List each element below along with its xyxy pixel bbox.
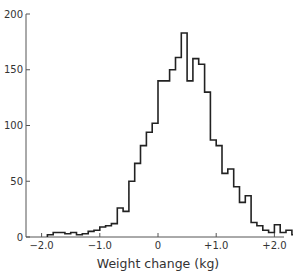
x-tick-label: +2.0 bbox=[262, 240, 286, 251]
y-tick-label: 0 bbox=[17, 232, 23, 243]
x-tick-label: −1.0 bbox=[88, 240, 112, 251]
y-tick-label: 100 bbox=[4, 120, 23, 131]
x-tick-label: 0 bbox=[155, 240, 161, 251]
x-tick-label: −2.0 bbox=[29, 240, 53, 251]
y-tick-label: 50 bbox=[10, 176, 23, 187]
histogram-chart: 050100150200 −2.0−1.00+1.0+2.0 Weight ch… bbox=[0, 0, 293, 276]
histogram-step-line bbox=[47, 33, 293, 237]
y-tick-label: 200 bbox=[4, 9, 23, 20]
x-tick-label: +1.0 bbox=[204, 240, 228, 251]
y-tick-label: 150 bbox=[4, 64, 23, 75]
x-axis: −2.0−1.00+1.0+2.0 bbox=[26, 233, 287, 251]
x-axis-title: Weight change (kg) bbox=[97, 256, 219, 271]
y-axis: 050100150200 bbox=[4, 9, 30, 243]
